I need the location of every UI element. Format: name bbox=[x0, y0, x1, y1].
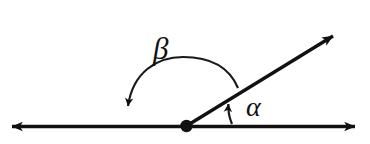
geometry-canvas bbox=[0, 0, 370, 144]
vertex-point bbox=[180, 120, 192, 132]
beta-arc bbox=[128, 57, 238, 106]
beta-angle-label: β bbox=[153, 33, 168, 64]
alpha-angle-label: α bbox=[246, 93, 261, 121]
alpha-arc bbox=[228, 104, 232, 124]
geometry-figure: β α bbox=[0, 0, 370, 144]
